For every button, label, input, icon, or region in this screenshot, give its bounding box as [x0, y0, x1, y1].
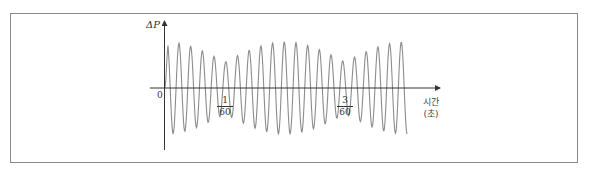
tick-numerator: 1 [217, 96, 233, 107]
y-axis-label: ΔP [146, 20, 160, 30]
origin-label: 0 [157, 91, 163, 100]
tick-label-3-60: 3 60 [337, 96, 353, 117]
x-axis-label-time: 시간 [423, 97, 439, 107]
tick-numerator: 3 [337, 96, 353, 107]
x-axis-label: 시간 (초) [423, 96, 439, 120]
x-axis-label-unit: (초) [423, 109, 438, 119]
tick-denominator: 60 [337, 107, 353, 117]
tick-denominator: 60 [217, 107, 233, 117]
beat-waveform-plot [0, 0, 590, 170]
tick-label-1-60: 1 60 [217, 96, 233, 117]
